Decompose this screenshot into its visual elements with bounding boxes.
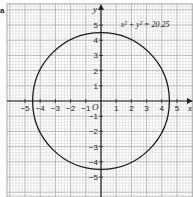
y-tick-label: −2 <box>89 127 99 136</box>
equation-label: x² + y² = 20.25 <box>120 20 170 29</box>
y-tick-label: −4 <box>89 158 99 167</box>
x-tick-label: −4 <box>36 104 46 113</box>
y-tick-label: −5 <box>89 173 99 182</box>
y-tick-label: 4 <box>94 36 99 45</box>
y-tick-label: −1 <box>89 112 99 121</box>
y-tick-label: −3 <box>89 143 99 152</box>
y-axis-label: y <box>92 4 97 14</box>
x-tick-label: 1 <box>114 104 119 113</box>
x-tick-label: −5 <box>20 104 30 113</box>
y-tick-label: 2 <box>94 67 99 76</box>
y-tick-label: 3 <box>94 51 99 60</box>
origin-label: O <box>92 102 99 112</box>
x-tick-label: 3 <box>144 104 149 113</box>
x-tick-label: 5 <box>175 104 180 113</box>
circle-graph: −5−4−3−2−112345−5−4−3−2−112345 yxOx² + y… <box>0 0 193 197</box>
x-tick-label: −2 <box>66 104 76 113</box>
y-tick-label: 5 <box>94 21 99 30</box>
x-tick-label: 4 <box>160 104 165 113</box>
x-tick-label: −3 <box>51 104 61 113</box>
x-tick-label: 2 <box>129 104 134 113</box>
x-axis-label: x <box>187 103 192 113</box>
y-tick-label: 1 <box>94 82 99 91</box>
